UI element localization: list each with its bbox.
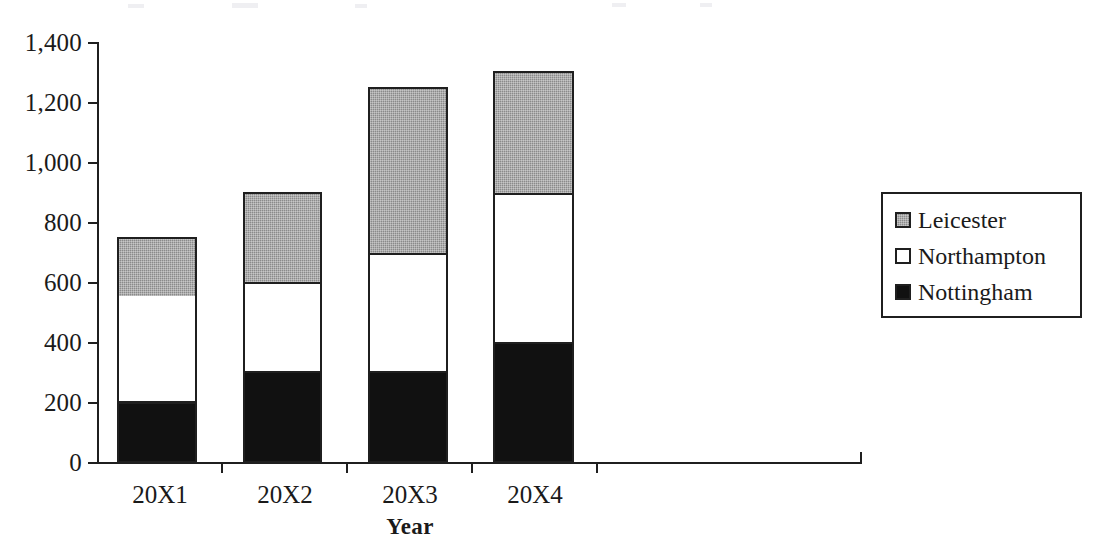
y-axis-tick-400 [88,342,98,344]
legend-item-northampton: Northampton [895,238,1080,274]
y-axis-label-0: 0 [69,450,82,475]
y-axis-label-800: 800 [44,210,82,235]
bar-segment-nottingham [368,371,448,463]
scan-artifact [232,3,258,8]
y-axis-tick-200 [88,402,98,404]
scan-artifact [612,3,626,7]
bar-segment-northampton [493,193,574,344]
y-axis-label-600: 600 [44,270,82,295]
bar-segment-northampton [243,282,322,373]
legend-swatch-white-icon [895,248,911,264]
bar-segment-leicester [243,192,322,284]
y-axis-label-400: 400 [44,330,82,355]
x-axis-tick-end [860,452,862,464]
legend-item-nottingham: Nottingham [895,274,1080,310]
bar-segment-leicester [368,87,448,255]
legend-item-leicester: Leicester [895,202,1080,238]
bar-segment-nottingham [117,402,197,463]
x-axis-tick-3 [471,462,473,473]
stacked-bar-chart: 1,400 1,200 1,000 800 600 400 200 0 20X1… [0,0,1101,551]
scan-artifact [128,4,144,8]
x-axis-label-20X1: 20X1 [97,481,223,509]
y-axis-tick-800 [88,222,98,224]
x-axis-title: Year [285,513,535,541]
y-axis-tick-1200 [88,102,98,104]
bar-segment-leicester [117,237,197,298]
y-axis-label-1200: 1,200 [25,90,82,115]
scan-artifact [355,4,367,8]
bar-segment-nottingham [493,342,574,463]
bar-segment-northampton-fill [117,296,197,344]
bar-segment-nottingham [243,371,322,463]
x-axis-tick-start [97,452,99,464]
bar-segment-northampton [117,342,197,403]
x-axis-label-20X2: 20X2 [222,481,348,509]
legend-swatch-black-icon [895,284,911,300]
x-axis-tick-1 [221,462,223,473]
bar-segment-leicester [493,71,574,195]
y-axis-tick-1000 [88,162,98,164]
chart-legend: Leicester Northampton Nottingham [881,192,1082,318]
x-axis-label-20X4: 20X4 [472,481,598,509]
y-axis-label-200: 200 [44,390,82,415]
x-axis-label-20X3: 20X3 [347,481,473,509]
y-axis-tick-600 [88,282,98,284]
scan-artifact [700,3,712,7]
legend-label-northampton: Northampton [918,243,1046,269]
y-axis-label-1000: 1,000 [25,150,82,175]
bar-segment-northampton [368,253,448,373]
x-axis-tick-2 [346,462,348,473]
y-axis-line [97,42,99,463]
x-axis-line [97,462,862,464]
legend-label-nottingham: Nottingham [918,279,1033,305]
y-axis-label-1400: 1,400 [25,30,82,55]
x-axis-tick-4 [596,462,598,473]
legend-swatch-gray-icon [895,212,911,228]
y-axis-tick-1400 [88,42,98,44]
legend-label-leicester: Leicester [918,207,1006,233]
